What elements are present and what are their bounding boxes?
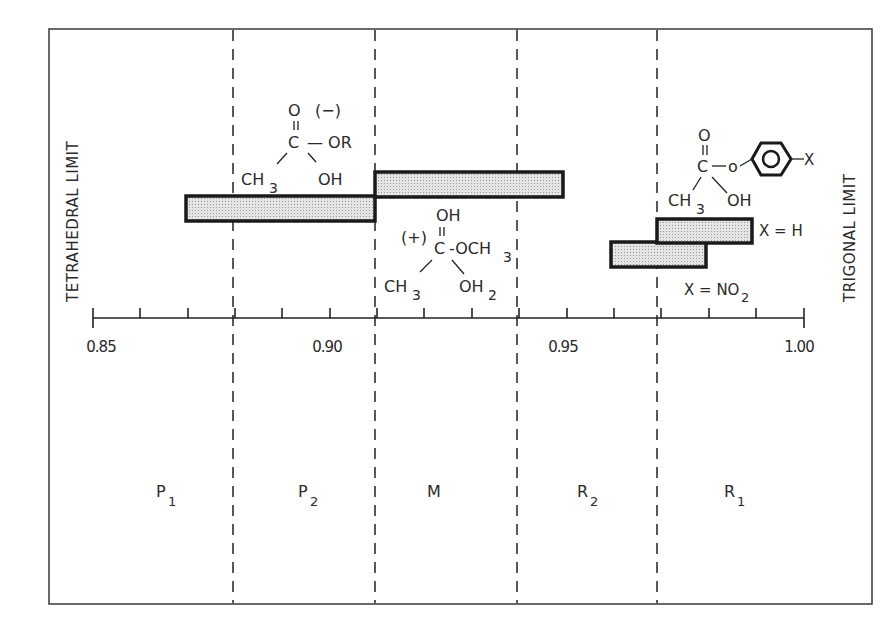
svg-text:3: 3 xyxy=(269,180,278,196)
region-r2: R 2 xyxy=(577,482,598,509)
svg-text:(+): (+) xyxy=(401,228,427,247)
region-r1: R 1 xyxy=(724,482,745,509)
plot-frame xyxy=(49,29,872,604)
anion-structure: O (−) C — OR CH 3 OH xyxy=(241,101,352,196)
benzene-ring-icon xyxy=(752,143,791,175)
tick-label-1-00: 1.00 xyxy=(784,338,814,356)
svg-text:1: 1 xyxy=(168,494,176,509)
cation-structure: OH (+) C -OCH 3 CH 3 OH 2 xyxy=(384,206,512,303)
svg-text:O: O xyxy=(698,126,711,145)
svg-text:P: P xyxy=(156,482,166,501)
svg-text:3: 3 xyxy=(696,201,705,217)
svg-text:CH: CH xyxy=(384,277,407,296)
svg-text:OH: OH xyxy=(459,277,484,296)
svg-text:OH: OH xyxy=(727,191,752,210)
svg-text:3: 3 xyxy=(503,249,512,265)
region-p1: P 1 xyxy=(156,482,176,509)
svg-text:O: O xyxy=(288,101,301,120)
svg-text:CH: CH xyxy=(668,191,691,210)
bar-cation-intermediate xyxy=(375,172,563,197)
region-m: M xyxy=(427,482,441,501)
svg-text:C: C xyxy=(697,157,708,176)
tick-label-0-95: 0.95 xyxy=(548,338,578,356)
svg-text:(−): (−) xyxy=(315,101,341,120)
bar-x-no2 xyxy=(611,242,706,267)
svg-text:o: o xyxy=(728,157,738,176)
figure: 0.85 0.90 0.95 1.00 TETRAHEDRAL LIMIT TR… xyxy=(0,0,894,632)
trigonal-limit-label: TRIGONAL LIMIT xyxy=(841,173,859,303)
svg-text:-OCH: -OCH xyxy=(449,239,491,258)
svg-text:3: 3 xyxy=(412,287,421,303)
svg-text:— OR: — OR xyxy=(307,133,352,152)
label-x-h: X = H xyxy=(759,222,803,240)
svg-text:R: R xyxy=(724,482,735,501)
aryl-ester-structure: O C o X CH 3 OH xyxy=(668,126,814,217)
svg-text:CH: CH xyxy=(241,170,264,189)
svg-text:2: 2 xyxy=(310,494,318,509)
tick-label-0-85: 0.85 xyxy=(86,338,116,356)
svg-text:OH: OH xyxy=(436,206,461,225)
svg-text:2: 2 xyxy=(488,287,497,303)
svg-text:2: 2 xyxy=(741,290,749,305)
svg-text:R: R xyxy=(577,482,588,501)
svg-text:M: M xyxy=(427,482,441,501)
x-axis xyxy=(93,308,804,328)
region-p2: P 2 xyxy=(298,482,318,509)
tetrahedral-limit-label: TETRAHEDRAL LIMIT xyxy=(64,140,82,303)
svg-text:2: 2 xyxy=(590,494,598,509)
svg-text:X = NO: X = NO xyxy=(684,281,739,299)
svg-text:C: C xyxy=(434,239,445,258)
svg-text:P: P xyxy=(298,482,308,501)
svg-text:C: C xyxy=(288,133,299,152)
tick-label-0-90: 0.90 xyxy=(312,338,342,356)
svg-text:X: X xyxy=(804,151,814,169)
label-x-no2: X = NO 2 xyxy=(684,281,749,305)
bar-x-h xyxy=(657,219,752,243)
svg-text:1: 1 xyxy=(737,494,745,509)
svg-text:OH: OH xyxy=(318,170,343,189)
bar-anion-intermediate xyxy=(186,196,375,221)
